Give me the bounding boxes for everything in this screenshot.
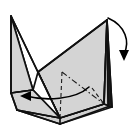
origami-illustration: Fold right flap down and outwardFold fro… [0,0,136,133]
origami-diagram: Origami fold step diagram A partially fo… [0,0,136,133]
